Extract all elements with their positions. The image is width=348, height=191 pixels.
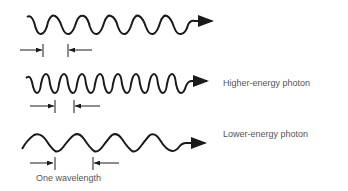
reference-wavelength-marker (20, 44, 92, 57)
higher-energy-wave (26, 74, 207, 93)
higher-energy-label: Higher-energy photon (223, 78, 310, 88)
wavelength-caption: One wavelength (36, 173, 101, 183)
lower-energy-wavelength-marker (30, 157, 119, 170)
lower-energy-label: Lower-energy photon (223, 129, 308, 139)
reference-wave (27, 16, 212, 35)
lower-energy-wave (22, 134, 205, 151)
photon-diagram (0, 0, 348, 191)
higher-energy-wavelength-marker (30, 100, 100, 113)
